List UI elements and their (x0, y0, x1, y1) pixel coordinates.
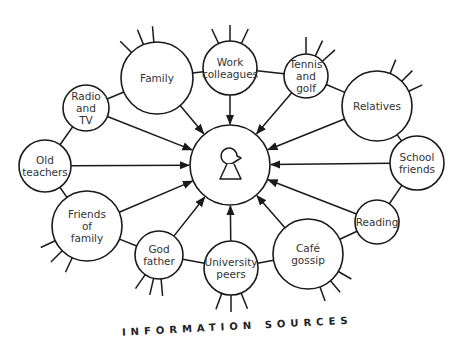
arrow-radio-and-tv (107, 116, 191, 149)
node-label: God (148, 243, 169, 255)
ring-link (397, 135, 401, 141)
ring-link (107, 92, 124, 99)
node-god-father: Godfather (135, 231, 183, 279)
spoke-line (216, 293, 222, 309)
ring-link (257, 71, 284, 74)
spoke-line (402, 71, 413, 82)
ring-link (389, 185, 402, 203)
spoke-line (241, 293, 247, 309)
node-label: Family (140, 72, 174, 84)
spoke-line (241, 29, 248, 44)
ring-link (183, 259, 205, 263)
arrow-old-teachers (71, 165, 189, 166)
arrow-tennis-and-golf (257, 93, 292, 134)
ring-link (340, 231, 357, 239)
node-relatives: Relatives (342, 71, 412, 141)
node-label: peers (216, 268, 245, 280)
node-label: Old (36, 154, 54, 166)
spoke-line (322, 50, 335, 61)
information-sources-diagram: FamilyWorkcolleaguesTennisandgolfRelativ… (0, 0, 461, 349)
spoke-line (330, 281, 340, 292)
spoke-line (135, 275, 145, 289)
node-reading: Reading (355, 200, 399, 244)
spoke-line (138, 30, 144, 45)
node-label: Café (296, 242, 320, 254)
arrow-god-father (174, 197, 205, 236)
spoke-line (152, 26, 153, 42)
spoke-line (161, 279, 162, 296)
spoke-line (409, 85, 423, 91)
ring-link (60, 127, 73, 145)
node-label: of (82, 220, 92, 232)
spoke-line (212, 29, 219, 44)
node-school-friends: Schoolfriends (390, 136, 444, 190)
spoke-line (390, 60, 396, 74)
arrow-cafe-gossip (257, 196, 285, 228)
spoke-line (41, 241, 56, 248)
node-old-teachers: Oldteachers (19, 140, 71, 192)
spoke-line (65, 258, 72, 273)
node-label: Friends (68, 208, 106, 220)
spoke-line (120, 41, 131, 52)
node-friends-of-family: Friendsoffamily (52, 191, 122, 261)
node-label: Tennis (289, 58, 323, 70)
node-label: Relatives (353, 100, 401, 112)
ring-link (60, 187, 67, 197)
node-label: Reading (356, 216, 399, 228)
node-label: golf (296, 82, 316, 94)
arrow-reading (268, 180, 356, 214)
spoke-line (320, 287, 325, 301)
node-label: gossip (291, 254, 325, 266)
ring-link (119, 239, 136, 246)
node-university-peers: Universitypeers (204, 241, 258, 295)
ring-link (326, 85, 344, 93)
node-label: colleagues (202, 68, 258, 80)
arrow-friends-of-family (119, 181, 192, 212)
node-cafe-gossip: Cafégossip (273, 219, 343, 289)
node-label: family (71, 232, 103, 244)
node-label: father (143, 255, 175, 267)
spoke-line (315, 41, 322, 56)
spoke-line (150, 278, 154, 295)
node-label: Work (217, 56, 245, 68)
node-label: Radio (71, 90, 101, 102)
arrow-family (180, 106, 204, 134)
node-family: Family (121, 42, 193, 114)
diagram-title: INFORMATION SOURCES (122, 315, 353, 338)
node-label: friends (399, 163, 435, 175)
node-label: and (76, 102, 96, 114)
node-tennis-and-golf: Tennisandgolf (284, 54, 328, 98)
spoke-line (338, 272, 351, 280)
node-label: University (205, 256, 258, 268)
center-node (190, 125, 270, 205)
arrow-relatives (268, 119, 344, 150)
node-label: TV (78, 114, 93, 126)
spoke-line (51, 251, 62, 262)
ring-link (258, 260, 274, 263)
node-label: School (400, 151, 435, 163)
arrow-school-friends (271, 163, 390, 164)
node-radio-and-tv: RadioandTV (63, 85, 109, 131)
node-work-colleagues: Workcolleagues (202, 41, 258, 95)
node-label: and (296, 70, 316, 82)
node-label: teachers (22, 166, 68, 178)
